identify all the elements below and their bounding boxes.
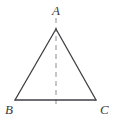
vertex-label-a: A [52,4,60,17]
vertex-label-c: C [100,103,109,116]
geometry-figure: A B C [0,0,131,125]
triangle-side-ac [56,29,96,100]
vertex-label-b: B [5,103,13,116]
triangle-diagram-svg [0,0,131,125]
triangle-side-ab [15,29,56,100]
